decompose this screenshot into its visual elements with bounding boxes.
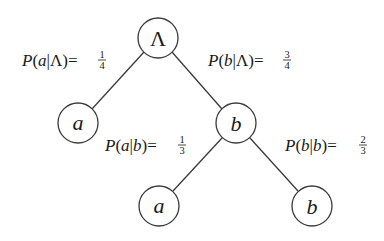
- svg-text:P(a|b)=: P(a|b)=: [104, 136, 157, 155]
- fraction-denominator: 3: [360, 145, 365, 156]
- node-root-label: Λ: [150, 26, 166, 51]
- node-b-level2: b: [292, 186, 332, 226]
- edge-label-b-given-lambda: P(b|Λ)= 3 4: [207, 49, 291, 71]
- fraction-denominator: 4: [99, 60, 105, 71]
- node-b-level1: b: [216, 103, 256, 143]
- svg-text:P(a|Λ)=: P(a|Λ)=: [21, 51, 78, 70]
- edge-label-b-given-b: P(b|b)= 2 3: [284, 134, 367, 156]
- node-a-level2: a: [139, 186, 179, 226]
- svg-text:P(b|Λ)=: P(b|Λ)=: [207, 51, 264, 70]
- node-a-level1-label: a: [73, 110, 84, 135]
- edge-label-a-given-b: P(a|b)= 1 3: [104, 134, 186, 156]
- node-a-level1: a: [58, 103, 98, 143]
- node-a-level2-label: a: [154, 193, 165, 218]
- probability-tree-diagram: Λ a b a b P(a|Λ)= 1 4 P(b|Λ)= 3 4 P(a|b)…: [0, 0, 384, 241]
- node-b-level1-label: b: [231, 111, 242, 136]
- fraction-numerator: 1: [179, 134, 184, 145]
- fraction-numerator: 2: [360, 134, 365, 145]
- fraction-denominator: 3: [179, 145, 184, 156]
- fraction-denominator: 4: [284, 60, 290, 71]
- fraction-numerator: 3: [284, 49, 289, 60]
- node-root: Λ: [138, 18, 178, 58]
- fraction-numerator: 1: [99, 49, 104, 60]
- edge-label-a-given-lambda: P(a|Λ)= 1 4: [21, 49, 106, 71]
- node-b-level2-label: b: [307, 194, 318, 219]
- svg-text:P(b|b)=: P(b|b)=: [284, 136, 337, 155]
